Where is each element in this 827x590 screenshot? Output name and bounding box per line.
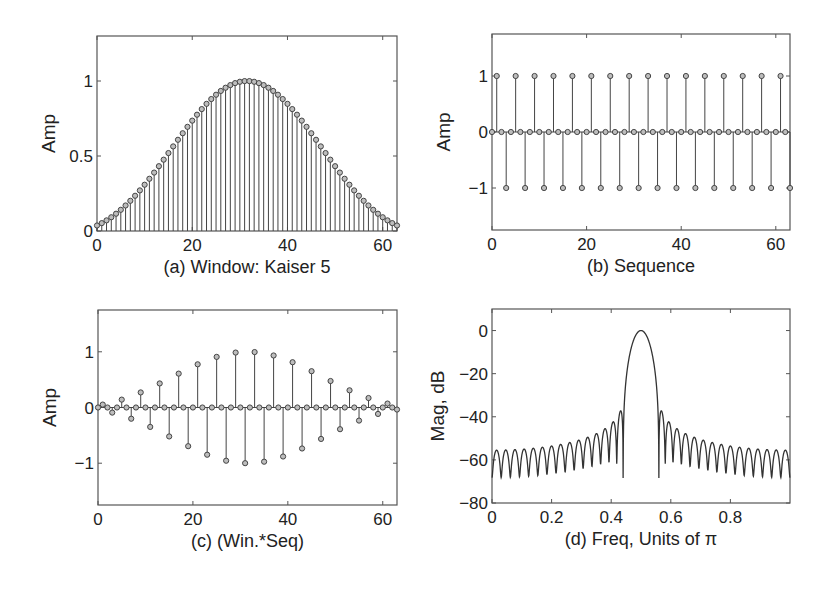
stem-marker bbox=[660, 129, 665, 134]
stem-marker bbox=[394, 407, 399, 412]
panel-caption-c: (c) (Win.*Seq) bbox=[191, 531, 304, 551]
y-tick-label: 0 bbox=[479, 123, 488, 142]
stem-marker bbox=[371, 405, 376, 410]
stem-marker bbox=[347, 182, 352, 187]
stem-marker bbox=[754, 129, 759, 134]
stem-marker bbox=[262, 459, 267, 464]
stem-marker bbox=[333, 405, 338, 410]
stem-marker bbox=[726, 129, 731, 134]
stem-marker bbox=[759, 73, 764, 78]
stem-marker bbox=[200, 405, 205, 410]
stem-marker bbox=[636, 185, 641, 190]
stem-marker bbox=[768, 185, 773, 190]
axes-frame-a bbox=[97, 36, 397, 231]
stem-marker bbox=[650, 129, 655, 134]
x-tick-label: 0.4 bbox=[599, 508, 623, 527]
stem-marker bbox=[271, 353, 276, 358]
stem-marker bbox=[176, 371, 181, 376]
stem-marker bbox=[740, 73, 745, 78]
stem-marker bbox=[285, 101, 290, 106]
panel-caption-d: (d) Freq, Units of π bbox=[565, 529, 717, 549]
stem-marker bbox=[332, 164, 337, 169]
stem-marker bbox=[152, 405, 157, 410]
stem-marker bbox=[285, 405, 290, 410]
stem-marker bbox=[218, 88, 223, 93]
stem-marker bbox=[171, 405, 176, 410]
stem-marker bbox=[735, 129, 740, 134]
y-tick-label: −1 bbox=[469, 179, 488, 198]
stem-marker bbox=[669, 129, 674, 134]
stem-marker bbox=[137, 188, 142, 193]
stem-marker bbox=[166, 150, 171, 155]
stem-marker bbox=[294, 112, 299, 117]
stem-marker bbox=[219, 405, 224, 410]
stem-marker bbox=[361, 405, 366, 410]
stem-marker bbox=[123, 203, 128, 208]
stem-marker bbox=[612, 129, 617, 134]
stem-marker bbox=[385, 401, 390, 406]
stem-marker bbox=[366, 203, 371, 208]
y-axis-label-b: Amp bbox=[433, 112, 454, 151]
stem-marker bbox=[645, 73, 650, 78]
stem-marker bbox=[328, 378, 333, 383]
stem-marker bbox=[356, 418, 361, 423]
stem-marker bbox=[579, 185, 584, 190]
stem-marker bbox=[318, 144, 323, 149]
stem-marker bbox=[617, 185, 622, 190]
stem-marker bbox=[309, 131, 314, 136]
stem-marker bbox=[110, 410, 115, 415]
stem-marker bbox=[113, 211, 118, 216]
y-tick-label: 0 bbox=[479, 322, 488, 341]
stem-marker bbox=[266, 405, 271, 410]
stem-marker bbox=[546, 129, 551, 134]
stem-marker bbox=[290, 106, 295, 111]
stem-marker bbox=[631, 129, 636, 134]
stem-marker bbox=[100, 402, 105, 407]
stem-marker bbox=[194, 112, 199, 117]
stem-marker bbox=[342, 405, 347, 410]
magnitude-curve bbox=[492, 331, 790, 478]
stem-marker bbox=[156, 164, 161, 169]
y-tick-label: −1 bbox=[75, 454, 94, 473]
stem-marker bbox=[109, 215, 114, 220]
stem-marker bbox=[598, 185, 603, 190]
stem-marker bbox=[603, 129, 608, 134]
stem-marker bbox=[147, 176, 152, 181]
stem-marker bbox=[199, 106, 204, 111]
stem-marker bbox=[185, 124, 190, 129]
x-tick-label: 0 bbox=[487, 235, 496, 254]
stem-marker bbox=[641, 129, 646, 134]
stem-marker bbox=[104, 218, 109, 223]
stem-marker bbox=[161, 157, 166, 162]
stem-marker bbox=[213, 92, 218, 97]
stem-marker bbox=[167, 434, 172, 439]
stem-marker bbox=[570, 73, 575, 78]
stem-marker bbox=[551, 73, 556, 78]
stem-marker bbox=[589, 73, 594, 78]
y-axis-label-d: Mag, dB bbox=[427, 371, 448, 442]
y-axis-label-c: Amp bbox=[39, 388, 60, 427]
stem-marker bbox=[494, 73, 499, 78]
stem-marker bbox=[622, 129, 627, 134]
stem-marker bbox=[394, 223, 399, 228]
stem-marker bbox=[375, 211, 380, 216]
stem-marker bbox=[304, 124, 309, 129]
stem-marker bbox=[138, 390, 143, 395]
x-tick-label: 40 bbox=[672, 235, 691, 254]
y-axis-label-a: Amp bbox=[38, 114, 59, 153]
stem-marker bbox=[152, 170, 157, 175]
stem-marker bbox=[523, 185, 528, 190]
x-tick-label: 40 bbox=[278, 236, 297, 255]
stem-marker bbox=[132, 193, 137, 198]
stem-marker bbox=[309, 369, 314, 374]
y-tick-label: 1 bbox=[84, 72, 93, 91]
stem-marker bbox=[716, 129, 721, 134]
stem-marker bbox=[593, 129, 598, 134]
stem-marker bbox=[247, 405, 252, 410]
stem-marker bbox=[118, 207, 123, 212]
stem-marker bbox=[275, 92, 280, 97]
panel-caption-a: (a) Window: Kaiser 5 bbox=[163, 257, 330, 277]
stem-marker bbox=[233, 350, 238, 355]
y-tick-label: 1 bbox=[479, 67, 488, 86]
stem-marker bbox=[556, 129, 561, 134]
